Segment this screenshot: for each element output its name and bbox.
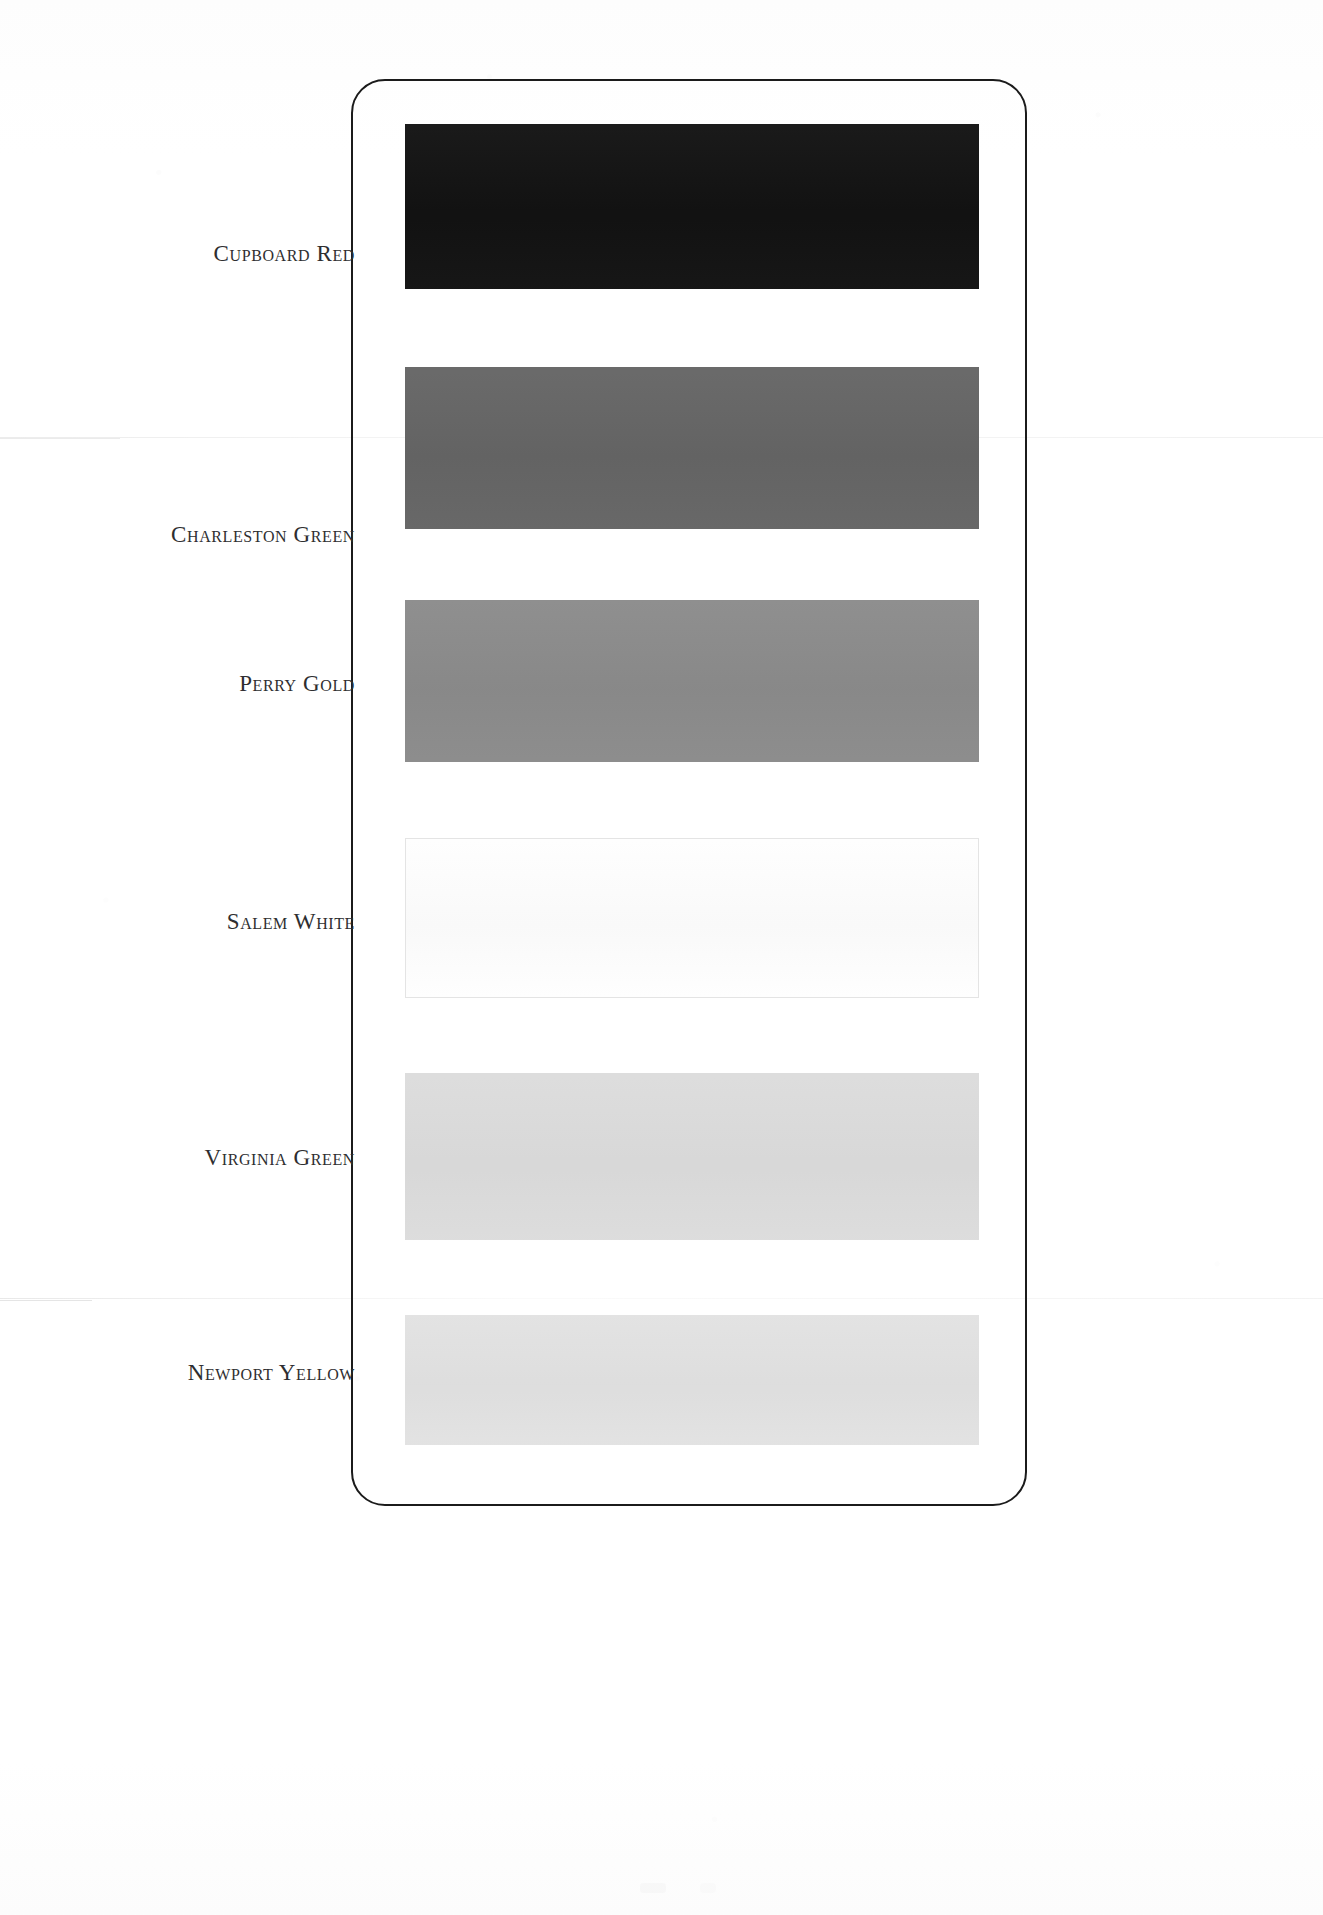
swatch-label: Cupboard Red xyxy=(0,241,355,267)
swatch-label: Virginia Green xyxy=(0,1145,355,1171)
color-swatch xyxy=(405,838,979,998)
color-swatch xyxy=(405,600,979,762)
page-bottom-speck xyxy=(700,1883,716,1893)
color-swatch xyxy=(405,1073,979,1240)
swatch-label: Salem White xyxy=(0,909,355,935)
color-chart-card xyxy=(351,79,1027,1506)
swatch-label: Charleston Green xyxy=(0,522,355,548)
page-bottom-speck xyxy=(640,1883,666,1893)
color-swatch xyxy=(405,367,979,529)
color-swatch xyxy=(405,1315,979,1445)
page-edge-mark xyxy=(0,1300,92,1301)
page-edge-mark xyxy=(0,438,120,439)
color-swatch xyxy=(405,124,979,289)
swatch-label: Newport Yellow xyxy=(0,1360,355,1386)
swatch-label: Perry Gold xyxy=(0,671,355,697)
